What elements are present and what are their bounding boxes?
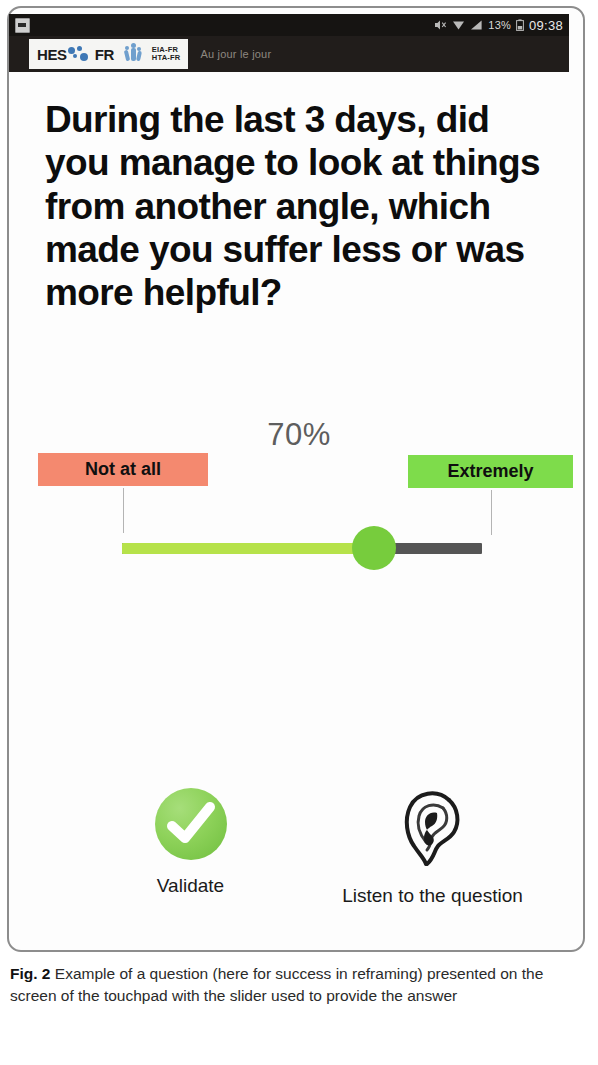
app-tagline: Au jour le jour <box>200 48 271 60</box>
status-bar-right-cluster: 13% 09:38 <box>434 18 563 33</box>
logo-code-2: HTA-FR <box>152 54 181 62</box>
screenshot-icon <box>15 18 30 33</box>
anchor-connector-right <box>491 490 492 535</box>
app-header-bar: HES FR EIA-FR HTA-FR Au jour le jour <box>9 36 569 72</box>
action-button-row: Validate Listen to the question <box>0 780 598 950</box>
listen-button-label: Listen to the question <box>330 884 535 907</box>
institution-logo: HES FR EIA-FR HTA-FR <box>29 39 188 69</box>
signal-icon <box>470 19 483 31</box>
slider-value-label: 70% <box>0 417 598 453</box>
slider-track-fill <box>122 543 374 554</box>
logo-dots-icon <box>68 46 94 62</box>
ear-icon <box>394 788 472 870</box>
answer-slider-group: 70% Not at all Extremely <box>0 410 598 600</box>
people-icon <box>123 43 143 65</box>
listen-button[interactable]: Listen to the question <box>330 788 535 907</box>
anchor-connector-left <box>123 488 124 533</box>
android-status-bar: 13% 09:38 <box>9 14 569 36</box>
slider-thumb[interactable] <box>352 526 396 570</box>
mute-icon <box>434 19 447 31</box>
question-text: During the last 3 days, did you manage t… <box>45 98 555 314</box>
wifi-icon <box>452 19 465 31</box>
check-circle-icon <box>155 788 227 860</box>
slider-anchor-high: Extremely <box>408 455 573 488</box>
logo-primary-text: HES <box>37 46 67 63</box>
validate-button-label: Validate <box>88 874 293 897</box>
logo-school-codes: EIA-FR HTA-FR <box>152 46 181 63</box>
clock-label: 09:38 <box>529 18 563 33</box>
figure-caption-text: Example of a question (here for success … <box>10 965 543 1004</box>
figure-number: Fig. 2 <box>10 965 50 982</box>
validate-button[interactable]: Validate <box>88 788 293 897</box>
figure-caption: Fig. 2 Example of a question (here for s… <box>10 963 588 1007</box>
slider-anchor-low: Not at all <box>38 453 208 486</box>
battery-icon <box>516 19 524 31</box>
hes-fr-wordmark: HES FR <box>37 46 114 63</box>
logo-secondary-text: FR <box>95 46 114 63</box>
battery-percent-label: 13% <box>488 19 511 31</box>
slider-control[interactable] <box>122 543 482 555</box>
